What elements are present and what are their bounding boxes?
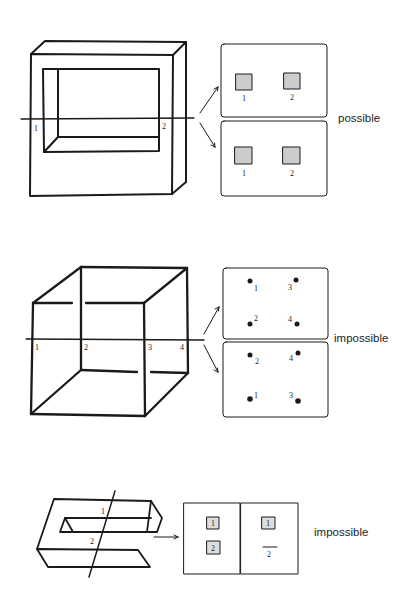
cube-panel-dots (247, 278, 301, 404)
svg-text:2: 2 (90, 537, 94, 546)
diagram-canvas: 1 2 1 2 1 2 1 2 3 4 1 3 2 4 2 4 1 3 1 2 … (0, 0, 412, 607)
frame-arrows (200, 87, 218, 147)
verdict-s-shape: impossible (314, 526, 368, 538)
svg-text:4: 4 (180, 343, 184, 352)
svg-text:3: 3 (289, 391, 293, 400)
svg-text:2: 2 (290, 93, 294, 102)
svg-text:1: 1 (242, 169, 246, 178)
svg-text:2: 2 (255, 357, 259, 366)
frame-panel-labels: 1 2 1 2 (242, 93, 294, 178)
svg-text:1: 1 (266, 519, 270, 528)
svg-text:3: 3 (288, 283, 292, 292)
svg-text:1: 1 (35, 343, 39, 352)
cut-line-s-shape (89, 491, 115, 577)
svg-text:4: 4 (288, 315, 292, 324)
s-shape-panels (184, 503, 298, 574)
s-shape-arrow (154, 535, 178, 539)
cube-panels (223, 268, 328, 417)
cut-line-cube (26, 339, 204, 340)
svg-text:1: 1 (211, 519, 215, 528)
cube-arrows (204, 307, 219, 372)
verdict-frame: possible (338, 112, 380, 124)
svg-text:4: 4 (289, 354, 293, 363)
cube-intersection-labels: 1 2 3 4 (35, 343, 184, 352)
svg-text:2: 2 (290, 169, 294, 178)
svg-text:1: 1 (101, 507, 105, 516)
cut-line-frame (21, 118, 194, 119)
frame-panel-markers (235, 73, 300, 164)
svg-text:1: 1 (34, 124, 38, 133)
svg-text:3: 3 (148, 343, 152, 352)
frame-intersection-labels: 1 2 (34, 122, 166, 133)
svg-text:1: 1 (254, 391, 258, 400)
svg-text:1: 1 (254, 284, 258, 293)
svg-text:2: 2 (84, 343, 88, 352)
verdict-cube: impossible (334, 332, 388, 344)
s-shape-object (37, 499, 162, 567)
svg-text:2: 2 (267, 550, 271, 559)
svg-text:2: 2 (162, 122, 166, 131)
svg-text:2: 2 (254, 314, 258, 323)
svg-text:2: 2 (211, 544, 215, 553)
s-shape-intersection-labels: 1 2 (90, 507, 105, 546)
cube-object (31, 267, 188, 416)
svg-text:1: 1 (242, 94, 246, 103)
frame-panels (221, 44, 327, 196)
